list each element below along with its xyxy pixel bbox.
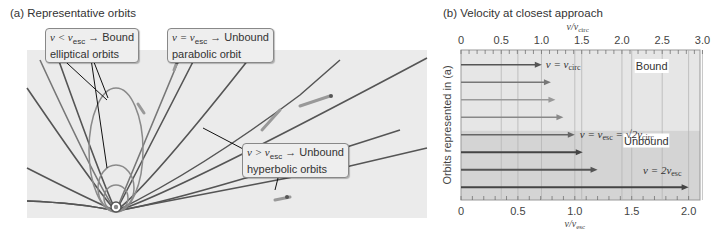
velocity-chart: 00.51.01.52.02.53.000.51.01.52.0v/vcircv…: [437, 0, 727, 233]
top-tick-label: 1.5: [574, 34, 589, 46]
top-tick-label: 3.0: [695, 34, 710, 46]
top-tick-label: 2.5: [655, 34, 670, 46]
top-tick-label: 1.0: [534, 34, 549, 46]
top-tick-label: 0: [458, 34, 464, 46]
bottom-axis-label: v/vesc: [565, 218, 586, 231]
top-tick-label: 2.0: [614, 34, 629, 46]
bound-label: Bound: [636, 60, 668, 72]
orbits-background: [27, 50, 427, 218]
bottom-tick-label: 0.5: [510, 205, 525, 217]
bottom-tick-label: 2.0: [681, 205, 696, 217]
callout-hyperbolic: v > vesc → Unbound hyperbolic orbits: [242, 143, 349, 178]
callout-parabolic: v = vesc → Unbound parabolic orbit: [167, 28, 274, 63]
bottom-tick-label: 0: [458, 205, 464, 217]
bottom-tick-label: 1.0: [567, 205, 582, 217]
top-tick-label: 0.5: [494, 34, 509, 46]
y-axis-label: Orbits represented in (a): [441, 65, 453, 184]
bottom-tick-label: 1.5: [624, 205, 639, 217]
top-axis-label: v/vcirc: [567, 21, 589, 34]
callout-bound-elliptical: v < vesc → Bound elliptical orbits: [45, 28, 139, 63]
